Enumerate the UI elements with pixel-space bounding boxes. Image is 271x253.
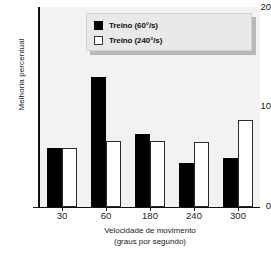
x-axis-label: Velocidade de movimento (graus por segun… (40, 225, 260, 247)
open-square-icon (94, 36, 103, 45)
legend-label-treino240: Treino (240°/s) (109, 36, 162, 45)
bar-chart-figure: Melhoria percentual 20 10 0 (0, 0, 271, 253)
x-tick-labels: 30 60 180 240 300 (40, 210, 260, 221)
legend-entry-treino240: Treino (240°/s) (94, 33, 251, 48)
x-axis-label-line1: Velocidade de movimento (104, 226, 196, 235)
bar-30-treino60 (47, 148, 62, 207)
x-axis-label-line2: (graus por segundo) (40, 236, 260, 247)
bar-180-treino60 (135, 134, 150, 207)
legend-label-treino60: Treino (60°/s) (109, 21, 158, 30)
y-axis-label: Melhoria percentual (17, 10, 26, 140)
bar-180-treino240 (150, 141, 165, 207)
x-tick-label-300: 300 (216, 210, 260, 221)
bar-240-treino240 (194, 142, 209, 207)
bar-300-treino240 (238, 120, 253, 207)
filled-square-icon (94, 21, 103, 30)
x-tick-label-180: 180 (128, 210, 172, 221)
bar-60-treino60 (91, 77, 106, 207)
bar-30-treino240 (62, 148, 77, 207)
x-tick-label-30: 30 (40, 210, 84, 221)
x-axis-line (38, 207, 260, 208)
chart-legend: Treino (60°/s) Treino (240°/s) (86, 13, 252, 51)
bar-300-treino60 (223, 158, 238, 207)
x-tick-label-60: 60 (84, 210, 128, 221)
bar-group-30 (40, 7, 84, 207)
bar-60-treino240 (106, 141, 121, 207)
legend-entry-treino60: Treino (60°/s) (94, 18, 251, 33)
bar-240-treino60 (179, 163, 194, 207)
x-tick-label-240: 240 (172, 210, 216, 221)
